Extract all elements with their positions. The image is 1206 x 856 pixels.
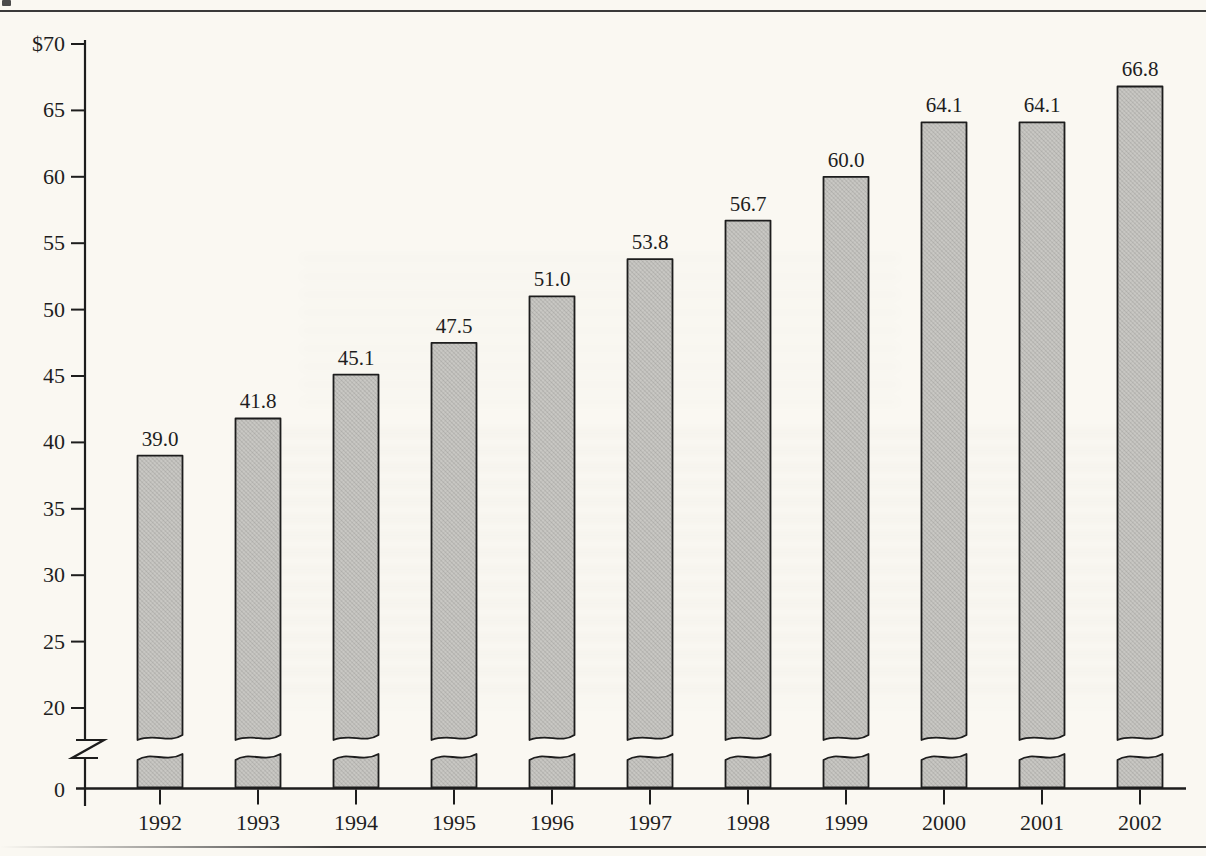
scanned-page: $7065605550454035302520039.0199241.81993… — [0, 0, 1206, 856]
bar-stub-segment — [334, 754, 379, 788]
bar-stub-segment — [726, 754, 771, 788]
bar-upper-segment — [138, 456, 183, 740]
x-tick-label: 1993 — [236, 810, 280, 835]
x-tick-label: 1994 — [334, 810, 378, 835]
bar-upper-segment — [530, 296, 575, 740]
x-tick-label: 2000 — [922, 810, 966, 835]
bar-value-label: 45.1 — [338, 346, 375, 370]
bar-value-label: 53.8 — [632, 230, 669, 254]
x-tick-label: 1997 — [628, 810, 672, 835]
bar-group: 53.81997 — [628, 230, 673, 834]
y-zero-label: 0 — [54, 777, 65, 802]
x-tick-label: 1996 — [530, 810, 574, 835]
bar-stub-segment — [138, 754, 183, 788]
bar-group: 66.82002 — [1118, 57, 1163, 834]
bar-stub-segment — [922, 754, 967, 788]
bar-value-label: 47.5 — [436, 314, 473, 338]
bar-stub-segment — [432, 754, 477, 788]
bar-value-label: 56.7 — [730, 192, 767, 216]
bar-stub-segment — [236, 754, 281, 788]
x-tick-label: 2001 — [1020, 810, 1064, 835]
y-tick-label: 50 — [43, 297, 65, 322]
bar-stub-segment — [1118, 754, 1163, 788]
x-tick-label: 1998 — [726, 810, 770, 835]
bar-upper-segment — [922, 122, 967, 740]
bar-value-label: 51.0 — [534, 267, 571, 291]
bar-upper-segment — [628, 259, 673, 740]
bar-group: 56.71998 — [726, 192, 771, 835]
y-tick-label: 30 — [43, 562, 65, 587]
x-tick-label: 2002 — [1118, 810, 1162, 835]
bottom-rule — [0, 846, 1206, 848]
bar-stub-segment — [1020, 754, 1065, 788]
y-tick-label: 40 — [43, 429, 65, 454]
y-tick-label: 35 — [43, 496, 65, 521]
bar-upper-segment — [236, 418, 281, 740]
bar-group: 64.12001 — [1020, 93, 1065, 834]
bar-value-label: 66.8 — [1122, 57, 1159, 81]
y-tick-label: 60 — [43, 164, 65, 189]
bar-upper-segment — [1020, 122, 1065, 740]
bar-group: 45.11994 — [334, 346, 379, 835]
x-tick-label: 1999 — [824, 810, 868, 835]
bar-value-label: 60.0 — [828, 148, 865, 172]
bar-value-label: 64.1 — [926, 93, 963, 117]
y-tick-label: 25 — [43, 629, 65, 654]
bar-value-label: 41.8 — [240, 389, 277, 413]
bar-upper-segment — [334, 375, 379, 740]
bar-upper-segment — [824, 177, 869, 740]
bar-upper-segment — [1118, 86, 1163, 740]
bar-stub-segment — [824, 754, 869, 788]
bar-chart: $7065605550454035302520039.0199241.81993… — [0, 0, 1206, 856]
x-tick-label: 1995 — [432, 810, 476, 835]
bar-stub-segment — [628, 754, 673, 788]
y-tick-label: $70 — [32, 31, 65, 56]
y-tick-label: 20 — [43, 695, 65, 720]
x-tick-label: 1992 — [138, 810, 182, 835]
bar-group: 64.12000 — [922, 93, 967, 834]
bar-value-label: 39.0 — [142, 427, 179, 451]
y-tick-label: 45 — [43, 363, 65, 388]
axis-break-mark — [72, 740, 104, 758]
bar-group: 41.81993 — [236, 389, 281, 834]
bar-group: 39.01992 — [138, 427, 183, 835]
bar-upper-segment — [432, 343, 477, 740]
bar-group: 60.01999 — [824, 148, 869, 835]
bar-value-label: 64.1 — [1024, 93, 1061, 117]
y-tick-label: 65 — [43, 97, 65, 122]
bar-stub-segment — [530, 754, 575, 788]
bar-upper-segment — [726, 221, 771, 740]
y-tick-label: 55 — [43, 230, 65, 255]
bar-group: 51.01996 — [530, 267, 575, 834]
bar-group: 47.51995 — [432, 314, 477, 835]
